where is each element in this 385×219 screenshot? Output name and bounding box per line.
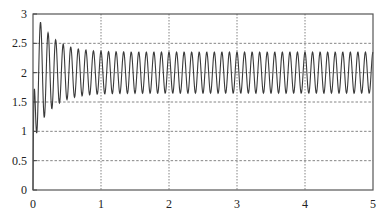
y-tick-label: 0 xyxy=(21,183,27,197)
x-tick-label: 2 xyxy=(166,197,172,211)
y-tick-label: 0.5 xyxy=(12,154,27,168)
line-chart: 00.511.522.53 012345 xyxy=(0,0,385,219)
y-tick-label: 1 xyxy=(21,124,27,138)
series-line-response xyxy=(33,22,373,190)
grid-lines xyxy=(33,14,373,190)
y-tick-label: 3 xyxy=(21,7,27,21)
x-tick-label: 0 xyxy=(30,197,36,211)
y-tick-label: 1.5 xyxy=(12,95,27,109)
x-tick-label: 3 xyxy=(234,197,240,211)
x-axis-ticks: 012345 xyxy=(30,197,376,211)
x-tick-label: 4 xyxy=(302,197,308,211)
x-tick-label: 1 xyxy=(98,197,104,211)
y-tick-label: 2 xyxy=(21,66,27,80)
x-tick-label: 5 xyxy=(370,197,376,211)
y-tick-label: 2.5 xyxy=(12,36,27,50)
